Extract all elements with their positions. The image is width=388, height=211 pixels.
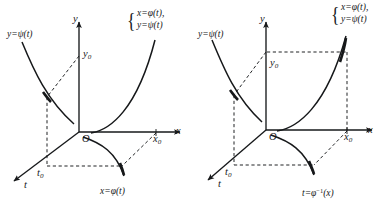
psi-curve-label-right: y=ψ(t) [198,30,224,40]
parametric-system-lines-right: x=φ(t), y=ψ(t) [341,2,368,25]
curve-psi-left [22,42,74,124]
y-axis-label-left: y [73,14,78,25]
t-axis-label-right: t [218,179,221,190]
curve-phi-inverse-right-marker [309,161,314,174]
phi-curve-label-left: x=φ(t) [100,187,125,197]
t-axis-label-left: t [24,180,27,191]
brace-line-1-right: x=φ(t), [341,2,368,14]
curve-parametric-right-marker [340,38,346,62]
t-axis-right [208,130,266,180]
x0-label-left: x0 [153,134,161,146]
brace-line-2-left: y=ψ(t) [137,20,164,32]
curve-parametric-left [91,40,155,133]
y0-label-left: y0 [83,49,91,61]
x0-label-right: x0 [344,132,352,144]
diagram-panel-left: y x t O y0 x0 t0 y=ψ(t) x=φ(t) { x=φ(t),… [0,0,194,211]
x-axis-label-left: x [176,126,181,137]
projection-guides-left [47,56,156,166]
t0-subscript-right: 0 [228,171,232,179]
diagram-panel-right: y x t O y0 x0 t0 y=ψ(t) t=φ−1(x) { x=φ(t… [194,0,388,211]
parametric-system-brace-left: { x=φ(t), y=ψ(t) [126,8,164,31]
curve-psi-right [212,40,262,122]
left-curly-brace-icon: { [127,11,135,29]
parametric-system-brace-right: { x=φ(t), y=ψ(t) [330,2,368,25]
curve-parametric-right [277,36,346,131]
projection-guides-right [234,52,347,165]
origin-label-right: O [269,132,277,143]
y0-label-right: y0 [270,58,278,70]
t0-label-right: t0 [225,167,231,179]
y-axis-label-right: y [260,14,265,25]
x0-subscript-right: 0 [349,136,353,144]
phi-inverse-base: t=φ [302,188,316,198]
y0-subscript-left: 0 [88,53,92,61]
t-axis-left [14,132,79,181]
phi-inverse-curve-label-right: t=φ−1(x) [302,188,334,198]
t0-subscript-left: 0 [40,172,44,180]
psi-curve-label-left: y=ψ(t) [7,30,33,40]
origin-label-left: O [82,134,90,145]
brace-line-1-left: x=φ(t), [137,8,164,20]
y0-subscript-right: 0 [275,62,279,70]
parametric-system-lines-left: x=φ(t), y=ψ(t) [137,8,164,31]
left-curly-brace-icon-right: { [331,5,339,23]
curve-phi-inverse-right [271,135,314,175]
figure-root: y x t O y0 x0 t0 y=ψ(t) x=φ(t) { x=φ(t),… [0,0,388,211]
x-axis-label-right: x [368,125,373,136]
t0-label-left: t0 [37,168,43,180]
brace-line-2-right: y=ψ(t) [341,14,368,26]
phi-inverse-argument: (x) [323,188,334,198]
x0-subscript-left: 0 [158,138,162,146]
